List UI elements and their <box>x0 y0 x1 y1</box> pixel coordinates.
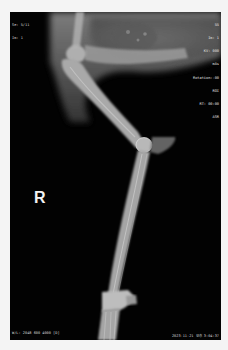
acquisition-datetime: 2023-11-21 오후 3:04:37 <box>172 334 219 338</box>
overlay-line: ASR <box>193 115 219 119</box>
overlay-top-right: 55 Im: 1 KV: 000 mAs Rotation:-00 ROI RT… <box>193 14 219 129</box>
xray-image-frame[interactable]: Se: 5/11 Im: 1 55 Im: 1 KV: 000 mAs Rota… <box>10 12 221 340</box>
window-level-label: W/L: 2048 600 4000 [D] <box>12 331 60 335</box>
overlay-line: 55 <box>193 23 219 27</box>
overlay-line: Im: 1 <box>193 36 219 40</box>
side-marker-r: R <box>34 190 46 206</box>
radiograph-image <box>10 12 221 340</box>
image-label: Im: 1 <box>12 36 29 40</box>
overlay-line: ROI <box>193 89 219 93</box>
overlay-line: Rotation:-00 <box>193 76 219 80</box>
overlay-line: KV: 000 <box>193 49 219 53</box>
series-label: Se: 5/11 <box>12 23 29 27</box>
overlay-top-left: Se: 5/11 Im: 1 <box>12 14 29 49</box>
overlay-line: mAs <box>193 62 219 66</box>
overlay-line: RT: 00:00 <box>193 102 219 106</box>
